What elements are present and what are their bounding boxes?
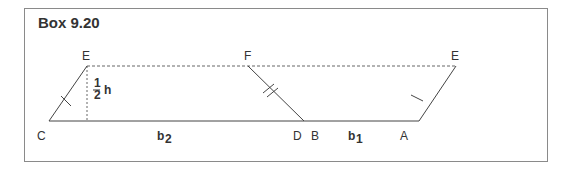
side-fd (248, 66, 304, 121)
label-b1-sub: 1 (356, 132, 363, 146)
label-a: A (400, 129, 408, 143)
label-f: F (244, 49, 251, 63)
side-ae (419, 66, 456, 121)
label-d: D (293, 129, 302, 143)
label-b: B (311, 129, 319, 143)
label-b1: b (348, 129, 355, 143)
side-ce (49, 66, 87, 121)
label-b2: b (157, 129, 164, 143)
geometry-diagram: E F E C D B A b 2 b 1 1 2 h (0, 0, 576, 173)
tick-mark (411, 95, 423, 101)
fraction-denominator: 2 (94, 88, 101, 102)
label-e-right: E (451, 49, 459, 63)
label-b2-sub: 2 (165, 132, 172, 146)
label-c: C (37, 129, 46, 143)
double-tick-1 (263, 84, 274, 93)
label-e-left: E (82, 49, 90, 63)
label-h: h (104, 83, 111, 97)
double-tick-2 (267, 88, 278, 97)
